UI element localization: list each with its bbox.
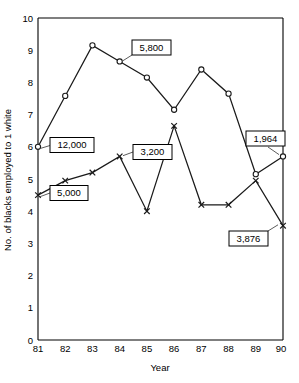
y-tick-3: 3 [28, 238, 33, 249]
chart-container: 10 9 8 7 6 5 4 3 2 1 0 81 82 83 84 85 86… [0, 0, 299, 383]
y-tick-labels: 10 9 8 7 6 5 4 3 2 1 0 [22, 13, 33, 346]
x-tick-88: 88 [223, 343, 234, 354]
data-point-circle-81[interactable] [35, 144, 40, 149]
y-tick-8: 8 [28, 77, 33, 88]
line-chart: 10 9 8 7 6 5 4 3 2 1 0 81 82 83 84 85 86… [0, 0, 299, 383]
x-tick-86: 86 [169, 343, 180, 354]
x-tick-81: 81 [33, 343, 44, 354]
data-point-circle-86[interactable] [172, 107, 177, 112]
annotation-layer: 12,000 5,000 5,800 3,200 1,964 [40, 40, 285, 246]
annotation-5000: 5,000 [40, 186, 88, 201]
y-tick-4: 4 [28, 206, 33, 217]
leader-line-1964 [268, 147, 279, 155]
data-point-circle-82[interactable] [63, 93, 68, 98]
y-tick-2: 2 [28, 270, 33, 281]
y-tick-1: 1 [28, 302, 33, 313]
x-tick-84: 84 [114, 343, 125, 354]
annotation-5800: 5,800 [123, 40, 172, 61]
data-point-circle-85[interactable] [144, 75, 149, 80]
data-point-circle-88[interactable] [226, 91, 231, 96]
y-axis-title: No. of blacks employed to 1 white [2, 109, 13, 251]
y-tick-6: 6 [28, 141, 33, 152]
data-point-circle-87[interactable] [199, 67, 204, 72]
callout-label-3876: 3,876 [237, 233, 261, 244]
annotation-1964: 1,964 [246, 131, 285, 155]
annotation-12000: 12,000 [41, 138, 95, 153]
leader-line-12000 [41, 146, 51, 149]
y-tick-9: 9 [28, 45, 33, 56]
callout-label-5000: 5,000 [57, 187, 81, 198]
leader-line-3200 [123, 152, 133, 156]
leader-line-3876 [268, 225, 278, 231]
y-tick-5: 5 [28, 174, 33, 185]
x-tick-82: 82 [60, 343, 71, 354]
data-point-circle-84[interactable] [117, 59, 122, 64]
x-tick-90: 90 [276, 343, 287, 354]
annotation-3200: 3,200 [123, 145, 172, 160]
data-point-circle-90[interactable] [280, 154, 285, 159]
data-point-cross-89[interactable] [253, 178, 259, 184]
callout-label-12000: 12,000 [57, 139, 86, 150]
callout-label-3200: 3,200 [141, 146, 165, 157]
callout-label-1964: 1,964 [254, 133, 278, 144]
data-point-cross-84[interactable] [117, 154, 123, 160]
leader-line-5800 [123, 55, 133, 61]
annotation-3876: 3,876 [229, 225, 278, 246]
y-tick-7: 7 [28, 109, 33, 120]
x-tick-89: 89 [251, 343, 262, 354]
data-point-circle-83[interactable] [90, 43, 95, 48]
data-point-circle-89[interactable] [253, 172, 258, 177]
callout-label-5800: 5,800 [140, 42, 164, 53]
y-tick-10: 10 [22, 13, 33, 24]
x-tick-87: 87 [196, 343, 207, 354]
x-tick-labels: 81 82 83 84 85 86 87 88 89 90 [33, 343, 287, 354]
x-axis-title: Year [150, 362, 169, 373]
x-tick-85: 85 [142, 343, 153, 354]
x-tick-83: 83 [87, 343, 98, 354]
